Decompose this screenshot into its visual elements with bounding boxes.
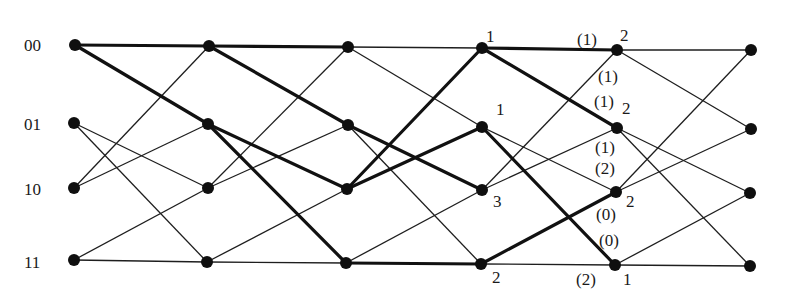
- state-node-01-t5: [745, 123, 757, 135]
- state-node-00-t2: [342, 41, 354, 53]
- path-metric-label: 2: [622, 99, 631, 118]
- state-node-11-t4: [609, 259, 621, 271]
- branch-metric-label: (2): [595, 159, 615, 178]
- state-node-10-t2: [341, 183, 353, 195]
- state-node-00-t0: [69, 39, 81, 51]
- state-node-01-t3: [476, 121, 488, 133]
- state-label-10: 10: [24, 180, 41, 199]
- branch-metric-label: (1): [594, 92, 614, 111]
- branch-metric-label: (1): [598, 67, 618, 86]
- state-node-11-t0: [68, 254, 80, 266]
- trellis-diagram: 00011011 11322221 (1)(1)(1)(1)(2)(0)(0)(…: [0, 0, 794, 299]
- survivor-edge-00-to-00: [209, 46, 348, 47]
- survivor-edge-00-to-00: [75, 45, 209, 46]
- state-node-00-t1: [203, 40, 215, 52]
- state-node-01-t2: [342, 119, 354, 131]
- branch-metric-label: (0): [599, 231, 619, 250]
- state-node-11-t2: [340, 257, 352, 269]
- state-node-01-t0: [68, 117, 80, 129]
- state-node-11-t1: [201, 256, 213, 268]
- state-node-10-t0: [68, 182, 80, 194]
- branch-metric-label: (1): [595, 138, 615, 157]
- branch-metric-label: (2): [576, 270, 596, 289]
- state-node-10-t5: [744, 187, 756, 199]
- path-metric-label: 2: [492, 268, 501, 287]
- state-label-00: 00: [24, 36, 41, 55]
- path-metric-label: 1: [623, 270, 632, 289]
- state-node-11-t5: [744, 260, 756, 272]
- state-node-00-t4: [611, 44, 623, 56]
- survivor-edge-11-to-11: [346, 263, 481, 264]
- path-metric-label: 2: [620, 26, 629, 45]
- path-metric-label: 2: [626, 192, 635, 211]
- path-metric-label: 1: [486, 27, 495, 46]
- path-metric-label: 3: [493, 192, 502, 211]
- state-node-10-t1: [202, 182, 214, 194]
- state-node-01-t4: [611, 122, 623, 134]
- state-label-11: 11: [24, 253, 40, 272]
- state-node-00-t5: [745, 44, 757, 56]
- state-label-01: 01: [24, 115, 41, 134]
- branch-metric-label: (1): [577, 30, 597, 49]
- state-node-10-t4: [610, 186, 622, 198]
- state-node-01-t1: [202, 118, 214, 130]
- state-node-10-t3: [476, 184, 488, 196]
- branch-metric-label: (0): [596, 205, 616, 224]
- path-metric-label: 1: [496, 100, 505, 119]
- state-node-11-t3: [475, 258, 487, 270]
